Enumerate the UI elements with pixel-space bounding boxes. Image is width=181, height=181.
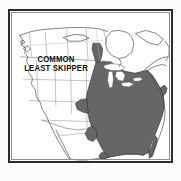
figure-page: COMMON LEAST SKIPPER: [0, 0, 181, 181]
map-frame: COMMON LEAST SKIPPER: [8, 9, 173, 163]
north-america-range-map: [10, 11, 171, 161]
